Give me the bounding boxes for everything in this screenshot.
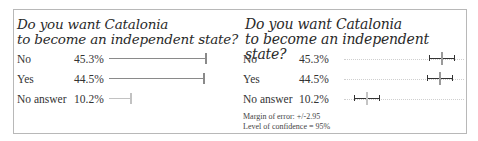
error-bar-chart-panel: Do you want Catalonia to become an indep… [239, 10, 468, 133]
error-cap-high [452, 75, 453, 81]
category-label: Yes [17, 71, 34, 87]
error-cap-low [354, 95, 355, 101]
bar-row-yes: Yes 44.5% [14, 71, 239, 87]
bar-end-cap [205, 53, 207, 64]
point-estimate-marker [366, 92, 368, 105]
category-label: No [243, 51, 257, 67]
error-cap-high [454, 55, 455, 61]
bar-end-cap [130, 93, 132, 104]
bar-row-no-answer: No answer 10.2% [14, 91, 239, 107]
value-label: 10.2% [299, 91, 329, 107]
bar [109, 78, 204, 79]
value-label: 44.5% [74, 71, 104, 87]
dotted-guide [344, 79, 464, 80]
category-label: No answer [17, 91, 67, 107]
point-estimate-marker [439, 72, 441, 85]
chart-title-line-2: to become an independent state? [17, 32, 238, 47]
dotted-guide [344, 59, 464, 60]
chart-title: Do you want Catalonia to become an indep… [17, 17, 238, 47]
category-label: Yes [243, 71, 260, 87]
error-cap-high [379, 95, 380, 101]
confidence-level-note: Level of confidence = 95% [243, 122, 330, 132]
bar-chart-panel: Do you want Catalonia to become an indep… [14, 10, 239, 133]
chart-title-line-1: Do you want Catalonia [17, 17, 238, 32]
category-label: No [17, 51, 31, 67]
category-label: No answer [243, 91, 293, 107]
point-estimate-marker [441, 52, 443, 65]
bar-end-cap [203, 73, 205, 84]
error-row-yes: Yes 44.5% [239, 71, 468, 87]
bar [109, 58, 206, 59]
value-label: 45.3% [74, 51, 104, 67]
error-cap-low [427, 75, 428, 81]
margin-of-error-note: Margin of error: +/-2.95 [243, 112, 320, 122]
bar-row-no: No 45.3% [14, 51, 239, 67]
value-label: 45.3% [299, 51, 329, 67]
error-row-no: No 45.3% [239, 51, 468, 67]
error-row-no-answer: No answer 10.2% [239, 91, 468, 107]
dotted-guide [344, 99, 464, 100]
bar [109, 98, 130, 99]
chart-frame: Do you want Catalonia to become an indep… [13, 9, 467, 134]
chart-title-line-1: Do you want Catalonia [245, 17, 468, 32]
error-cap-low [429, 55, 430, 61]
value-label: 44.5% [299, 71, 329, 87]
value-label: 10.2% [74, 91, 104, 107]
